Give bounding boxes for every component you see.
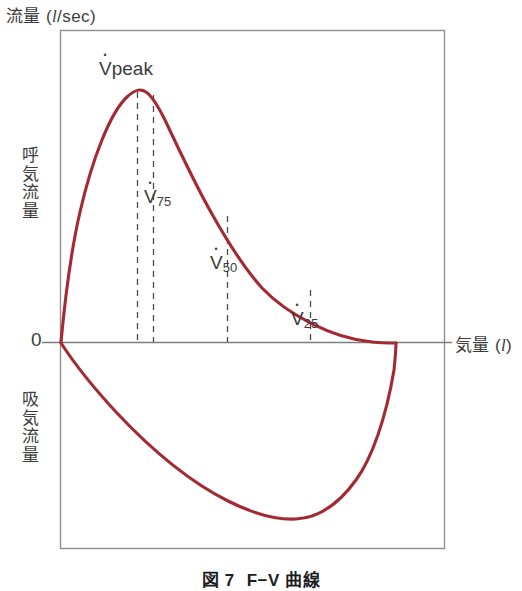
figure-caption: 図 7F−V 曲線 <box>0 566 522 591</box>
v50-subscript: 50 <box>223 260 237 275</box>
figure-caption-number: 図 7 <box>202 571 235 590</box>
flow-axis-title-tail: /sec) <box>57 7 96 26</box>
inspiratory-flow-label: 吸気流量 <box>19 390 38 464</box>
volume-axis-title: 気量 (l) <box>455 331 512 356</box>
v25-subscript: 25 <box>304 316 318 331</box>
flow-axis-title-main: 流量 ( <box>6 7 52 26</box>
flow-axis-title: 流量 (l/sec) <box>6 2 96 27</box>
v25-v-glyph: V <box>291 308 304 330</box>
figure-caption-title: F−V 曲線 <box>247 571 320 590</box>
volume-axis-title-main: 気量 ( <box>455 336 501 355</box>
vpeak-subscript: peak <box>112 58 153 79</box>
v75-subscript: 75 <box>157 194 171 209</box>
volume-axis-title-tail: ) <box>506 336 512 355</box>
vpeak-v-glyph: V <box>99 58 112 80</box>
vpeak-label: Vpeak <box>99 58 153 80</box>
v75-v-glyph: V <box>144 186 157 208</box>
v25-label: V25 <box>291 308 318 330</box>
v75-label: V75 <box>144 186 171 208</box>
zero-tick-label: 0 <box>31 329 42 351</box>
expiratory-flow-label: 呼気流量 <box>19 146 38 220</box>
v50-label: V50 <box>210 252 237 274</box>
v50-v-glyph: V <box>210 252 223 274</box>
